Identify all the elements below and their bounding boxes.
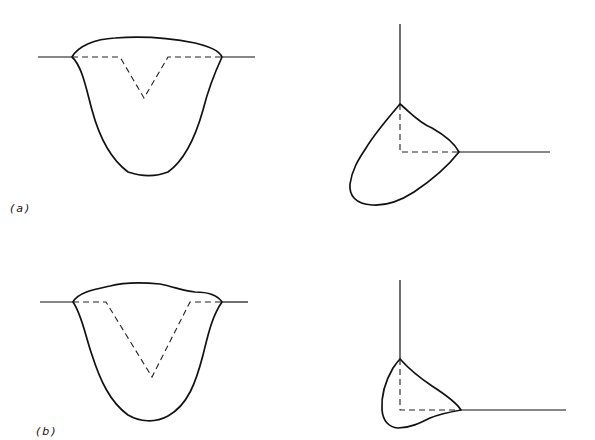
weld-bead	[382, 359, 461, 428]
panel-b-fillet-weld	[382, 280, 566, 428]
weld-bead	[72, 37, 222, 175]
panel-label-a: (a)	[10, 202, 31, 215]
weld-bead	[350, 104, 459, 205]
panel-b-butt-weld	[40, 283, 248, 421]
weld-diagram	[0, 0, 595, 440]
weld-bead	[73, 283, 222, 421]
panel-a-fillet-weld	[350, 24, 550, 205]
panel-label-b: (b)	[36, 425, 58, 438]
panel-a-butt-weld	[38, 37, 255, 175]
groove-outline	[72, 57, 222, 98]
